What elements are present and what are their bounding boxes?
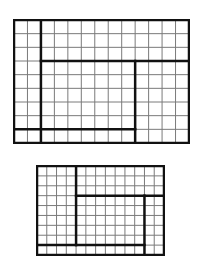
large-grid (13, 19, 190, 144)
small-grid (36, 165, 165, 256)
